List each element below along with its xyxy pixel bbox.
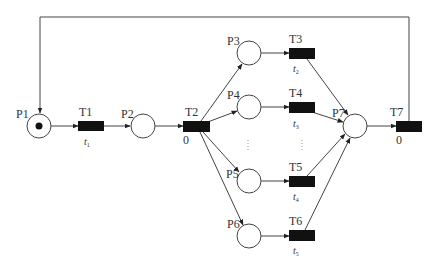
- transition-label: T5: [289, 160, 302, 174]
- transition-label: T4: [289, 86, 302, 100]
- place-p7: P7: [332, 106, 367, 138]
- transition-t6: T6 t5: [289, 214, 315, 257]
- transition-time: t5: [293, 245, 299, 257]
- place-label: P6: [227, 217, 240, 231]
- transition-label: T7: [390, 105, 403, 119]
- transition-label: T6: [289, 214, 302, 228]
- place-label: P7: [332, 106, 345, 120]
- transition-time: 0: [396, 133, 402, 147]
- petri-net-diagram: P1 P2 P3 P4 P5 P6 P7 T1 t1 T2 0 T3 t2: [0, 0, 438, 272]
- place-label: P3: [227, 34, 240, 48]
- transition-time: t2: [293, 63, 299, 75]
- transition-label: T1: [79, 105, 92, 119]
- place-label: P1: [16, 107, 29, 121]
- place-p3: P3: [227, 34, 261, 65]
- place-p6: P6: [227, 217, 261, 248]
- transition-time: t4: [293, 191, 299, 203]
- place-label: P4: [227, 88, 240, 102]
- transition-label: T3: [289, 32, 302, 46]
- transition-time: 0: [183, 133, 189, 147]
- transition-label: T2: [185, 105, 198, 119]
- transition-t4: T4 t3: [289, 86, 315, 130]
- arc-t5-p7: [307, 134, 345, 176]
- place-p4: P4: [227, 88, 261, 119]
- transition-t2: T2 0: [183, 105, 210, 147]
- transition-time: t3: [293, 118, 299, 130]
- transition-t1: T1 t1: [78, 105, 104, 148]
- transition-time: t1: [84, 136, 90, 148]
- place-p2: P2: [121, 107, 155, 138]
- place-label: P5: [226, 167, 239, 181]
- transition-t3: T3 t2: [289, 32, 315, 75]
- place-label: P2: [121, 107, 134, 121]
- place-p1: P1: [16, 107, 51, 138]
- place-p5: P5: [226, 167, 261, 193]
- arc-t2-p5: [203, 132, 239, 172]
- transition-t5: T5 t4: [289, 160, 315, 203]
- arc-t7-p1-feedback: [40, 17, 409, 121]
- token-icon: [36, 123, 43, 130]
